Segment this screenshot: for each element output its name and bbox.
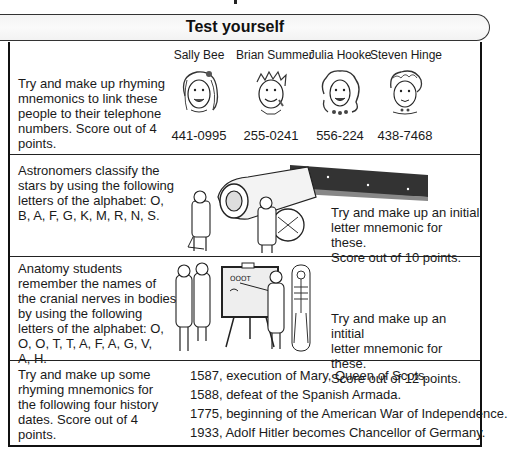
person-name: Sally Bee — [164, 48, 234, 62]
history-date-item: 1775, beginning of the American War of I… — [190, 406, 508, 421]
text-line: mnemonics to link these — [18, 91, 188, 106]
person-name: Steven Hinge — [370, 48, 440, 62]
phone-number: 438-7468 — [370, 128, 440, 143]
text-line: letters of the alphabet: O, — [18, 321, 188, 336]
text-line: numbers. Score out of 4 — [18, 121, 188, 136]
history-date-item: 1587, execution of Mary, Queen of Scots. — [190, 368, 428, 383]
text-line: people to their telephone — [18, 106, 188, 121]
text-line: dates. Score out of 4 — [18, 412, 183, 427]
row-astronomy-mnemonic: Astronomers classify the stars by using … — [10, 154, 480, 256]
text-line: Try and make up some — [18, 367, 183, 382]
text-line: the cranial nerves in bodies — [18, 291, 188, 306]
board-text: OOOT — [230, 275, 252, 283]
history-date-item: 1933, Adolf Hitler becomes Chancellor of… — [190, 425, 485, 440]
anatomy-class-illustration: OOOT — [168, 261, 320, 357]
row-anatomy-mnemonic: Anatomy students remember the names of t… — [10, 256, 480, 360]
text-line: stars by using the following — [18, 178, 188, 193]
astronomy-description: Astronomers classify the stars by using … — [18, 163, 188, 223]
phone-instruction: Try and make up rhyming mnemonics to lin… — [18, 76, 188, 151]
row-phone-mnemonics: Try and make up rhyming mnemonics to lin… — [10, 42, 480, 154]
section-header: Test yourself — [0, 14, 490, 41]
person-brian-summer: Brian Summer 255-0241 — [236, 48, 306, 143]
person-name: Julia Hooke — [305, 48, 375, 62]
text-line: letters of the alphabet: O, — [18, 193, 188, 208]
row-history-dates: Try and make up some rhyming mnemonics f… — [10, 360, 480, 445]
text-line: points. — [18, 136, 188, 151]
test-table: Try and make up rhyming mnemonics to lin… — [8, 42, 482, 447]
text-line: the following four history — [18, 397, 183, 412]
history-instruction: Try and make up some rhyming mnemonics f… — [18, 367, 183, 442]
person-sally-bee: Sally Bee 441-0995 — [164, 48, 234, 143]
person-name: Brian Summer — [236, 48, 306, 62]
text-line: remember the names of — [18, 276, 188, 291]
text-line: Try and make up rhyming — [18, 76, 188, 91]
text-line: rhyming mnemonics for — [18, 382, 183, 397]
anatomy-description: Anatomy students remember the names of t… — [18, 261, 188, 366]
text-line: Try and make up an intitial — [331, 311, 481, 341]
text-line: Astronomers classify the — [18, 163, 188, 178]
text-line: Anatomy students — [18, 261, 188, 276]
text-line: by using the following — [18, 306, 188, 321]
history-date-item: 1588, defeat of the Spanish Armada. — [190, 387, 401, 402]
phone-number: 556-224 — [305, 128, 375, 143]
phone-number: 255-0241 — [236, 128, 306, 143]
text-line: B, A, F, G, K, M, R, N, S. — [18, 208, 188, 223]
cartoon-face-icon — [249, 66, 293, 118]
text-line: points. — [18, 427, 183, 442]
phone-number: 441-0995 — [164, 128, 234, 143]
person-julia-hooke: Julia Hooke 556-224 — [305, 48, 375, 143]
page-top-mark — [234, 0, 237, 4]
text-line: O, O, T, T, A, F, A, G, V, — [18, 336, 188, 351]
text-line: letter mnemonic for these. — [331, 220, 481, 250]
section-title: Test yourself — [0, 18, 470, 36]
text-line: Try and make up an initial — [331, 205, 481, 220]
person-steven-hinge: Steven Hinge 438-7468 — [370, 48, 440, 143]
cartoon-face-icon — [383, 66, 427, 118]
cartoon-face-icon — [318, 66, 362, 118]
cartoon-face-icon — [177, 66, 221, 118]
